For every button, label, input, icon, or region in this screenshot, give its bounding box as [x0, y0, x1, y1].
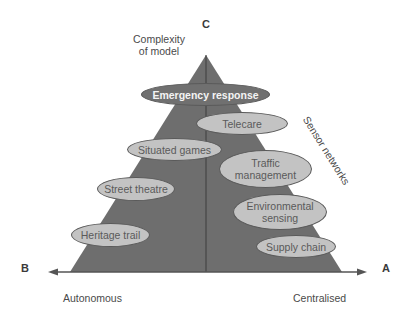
vertex-c-label: Complexity of model — [130, 33, 188, 57]
vertex-c-label-line1: Complexity — [130, 33, 188, 45]
vertex-a-letter: A — [382, 262, 390, 274]
node-situated-games: Situated games — [127, 138, 222, 161]
vertex-c-label-line2: of model — [130, 45, 188, 57]
node-telecare: Telecare — [196, 112, 288, 135]
arrow-right-icon — [357, 269, 367, 276]
triangle-graphic — [0, 0, 411, 320]
vertex-b-letter: B — [21, 262, 29, 274]
node-environmental-line1: Environmental — [246, 200, 313, 212]
node-environmental-line2: sensing — [262, 212, 298, 224]
vertex-c-letter: C — [202, 18, 210, 30]
node-traffic-line1: Traffic — [251, 157, 280, 169]
node-traffic-line2: management — [235, 169, 296, 181]
node-heritage-trail: Heritage trail — [71, 223, 150, 247]
node-emergency-response: Emergency response — [141, 83, 270, 106]
arrow-left-icon — [48, 269, 58, 276]
diagram-canvas: C Complexity of model B Autonomous A Cen… — [0, 0, 411, 320]
vertex-b-label: Autonomous — [63, 292, 122, 304]
node-traffic-management: Traffic management — [219, 150, 312, 188]
vertex-a-label: Centralised — [293, 292, 346, 304]
node-supply-chain: Supply chain — [256, 235, 336, 258]
node-environmental-sensing: Environmental sensing — [233, 194, 327, 230]
node-street-theatre: Street theatre — [97, 177, 175, 201]
